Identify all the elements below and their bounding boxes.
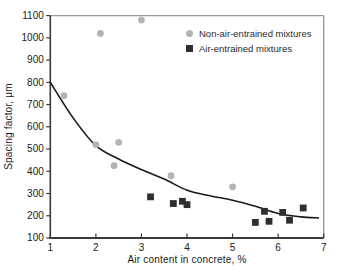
square-marker-icon bbox=[186, 45, 193, 52]
data-point-air-entrained bbox=[300, 205, 307, 212]
y-tick-label: 700 bbox=[27, 99, 44, 110]
data-point-non-air-entrained bbox=[111, 162, 118, 169]
circle-marker-icon bbox=[186, 30, 193, 37]
data-point-air-entrained bbox=[266, 218, 273, 225]
x-tick-label: 2 bbox=[93, 242, 99, 253]
x-tick-label: 4 bbox=[184, 242, 190, 253]
x-axis-title: Air content in concrete, % bbox=[50, 254, 324, 265]
data-point-non-air-entrained bbox=[92, 141, 99, 148]
data-point-air-entrained bbox=[147, 193, 154, 200]
data-point-air-entrained bbox=[286, 217, 293, 224]
x-tick-label: 6 bbox=[275, 242, 281, 253]
data-point-non-air-entrained bbox=[61, 92, 68, 99]
chart-legend: Non-air-entrained mixtures Air-entrained… bbox=[186, 28, 311, 54]
x-tick-label: 3 bbox=[139, 242, 145, 253]
y-tick-label: 300 bbox=[27, 188, 44, 199]
data-point-air-entrained bbox=[184, 201, 191, 208]
y-tick-label: 200 bbox=[27, 210, 44, 221]
x-tick-label: 7 bbox=[321, 242, 327, 253]
trend-curve bbox=[50, 82, 319, 218]
data-point-air-entrained bbox=[261, 208, 268, 215]
legend-item-non-air-entrained: Non-air-entrained mixtures bbox=[186, 28, 311, 39]
data-point-non-air-entrained bbox=[168, 172, 175, 179]
data-point-air-entrained bbox=[170, 200, 177, 207]
data-point-non-air-entrained bbox=[138, 17, 145, 24]
y-tick-label: 1100 bbox=[22, 10, 44, 21]
y-tick-label: 1000 bbox=[22, 32, 45, 43]
data-point-air-entrained bbox=[252, 219, 259, 226]
data-point-air-entrained bbox=[279, 209, 286, 216]
y-tick-label: 400 bbox=[27, 166, 44, 177]
x-tick-label: 1 bbox=[48, 242, 54, 253]
data-point-non-air-entrained bbox=[115, 139, 122, 146]
y-tick-label: 600 bbox=[27, 121, 44, 132]
legend-label: Air-entrained mixtures bbox=[199, 43, 292, 54]
y-tick-label: 100 bbox=[27, 232, 44, 243]
data-point-non-air-entrained bbox=[229, 183, 236, 190]
legend-item-air-entrained: Air-entrained mixtures bbox=[186, 43, 311, 54]
y-tick-label: 900 bbox=[27, 54, 44, 65]
chart-figure: 1002003004005006007008009001000110012345… bbox=[0, 0, 337, 278]
y-tick-label: 500 bbox=[27, 143, 44, 154]
legend-label: Non-air-entrained mixtures bbox=[199, 28, 311, 39]
data-point-non-air-entrained bbox=[97, 30, 104, 37]
y-axis-title: Spacing factor, μm bbox=[3, 67, 14, 187]
x-tick-label: 5 bbox=[230, 242, 236, 253]
y-tick-label: 800 bbox=[27, 77, 44, 88]
